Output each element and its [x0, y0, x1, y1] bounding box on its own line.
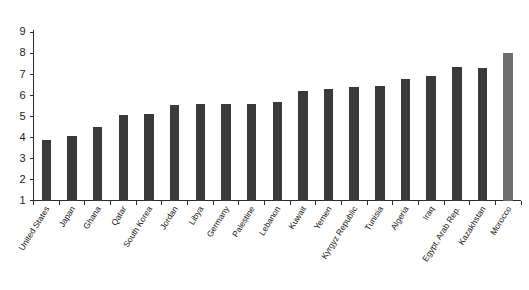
bar: [478, 68, 488, 201]
bar: [401, 79, 411, 200]
bar: [426, 76, 436, 200]
bar: [42, 140, 52, 200]
y-tick-label: 8: [19, 46, 25, 58]
bar: [273, 102, 283, 201]
bar: [170, 105, 180, 201]
y-tick-label: 7: [19, 68, 25, 80]
bar: [324, 89, 334, 201]
y-tick-label: 3: [19, 152, 25, 164]
bar: [452, 67, 462, 201]
y-tick-label: 5: [19, 110, 25, 122]
y-tick-label: 2: [19, 173, 25, 185]
bar: [67, 136, 77, 200]
y-tick-label: 4: [19, 131, 25, 143]
bar: [247, 104, 257, 201]
bar-chart: 123456789 United StatesJapanGhanaQatarSo…: [0, 0, 529, 290]
bar: [375, 86, 385, 201]
bar: [144, 114, 154, 200]
y-tick-label: 6: [19, 89, 25, 101]
y-tick-label: 1: [19, 194, 25, 206]
chart-canvas: 123456789 United StatesJapanGhanaQatarSo…: [0, 0, 529, 290]
y-tick-label: 9: [19, 25, 25, 37]
bar: [349, 87, 359, 201]
plot-background: [0, 0, 529, 290]
bar: [119, 115, 129, 200]
bar: [298, 91, 308, 201]
bar: [503, 53, 513, 200]
bar: [221, 104, 231, 201]
bar: [93, 127, 103, 201]
bar: [196, 104, 206, 201]
